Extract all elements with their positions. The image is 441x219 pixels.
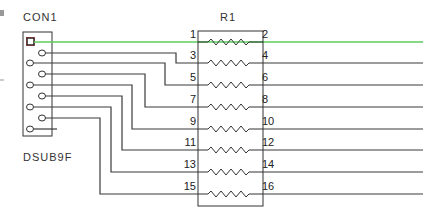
pin-label: 3 [190,49,196,61]
schematic-canvas: CON1 DSUB9F R1 [0,0,441,219]
wire-net-6[interactable] [46,96,199,150]
edge-marker [0,10,4,16]
resistor-zigzag-icon [198,82,263,88]
pin-label: 16 [262,180,274,192]
pin-label: 14 [262,158,274,170]
pin-label: 6 [262,71,268,83]
resistor-zigzag-icon [198,60,263,66]
resistor-zigzag-icon [198,147,263,153]
pin-label: 12 [262,136,274,148]
resistor-elements [198,39,263,197]
pin-label: 5 [190,71,196,83]
pin-label: 1 [190,28,196,40]
resistor-zigzag-icon [198,191,263,197]
right-pin-labels: 2 4 6 8 10 12 14 16 [262,28,274,192]
pin-label: 7 [190,93,196,105]
pin-circle-icon[interactable] [39,93,46,99]
resistor-outline [198,31,263,206]
wire-net-2[interactable] [46,53,199,63]
pin-label: 11 [185,136,196,148]
wires [34,53,199,194]
pin-label: 10 [262,115,274,127]
pin1-square-icon[interactable] [27,38,34,45]
connector-part-label: DSUB9F [23,151,72,163]
pin-circle-icon[interactable] [39,115,46,121]
pin-circle-icon[interactable] [27,82,34,88]
resistor-zigzag-icon [198,169,263,175]
connector-dsub9f[interactable] [23,32,52,136]
pin-label: 9 [190,115,196,127]
pin-circle-icon[interactable] [27,60,34,66]
connector-ref-label: CON1 [23,11,58,23]
pin-circle-icon[interactable] [27,126,34,132]
pin-circle-icon[interactable] [39,50,46,56]
resistor-network-r1[interactable] [198,31,263,206]
pin-label: 15 [184,180,196,192]
pin-circle-icon[interactable] [27,104,34,110]
resistor-zigzag-icon [198,126,263,132]
resistor-ref-label: R1 [220,11,236,23]
output-wires [263,63,423,194]
pin-label: 8 [262,93,268,105]
pin-label: 4 [262,49,268,61]
pin-label: 13 [184,158,196,170]
resistor-zigzag-icon [198,104,263,110]
left-pin-labels: 1 3 5 7 9 11 13 15 [184,28,196,192]
pin-circle-icon[interactable] [39,71,46,77]
pin-label: 2 [262,28,268,40]
